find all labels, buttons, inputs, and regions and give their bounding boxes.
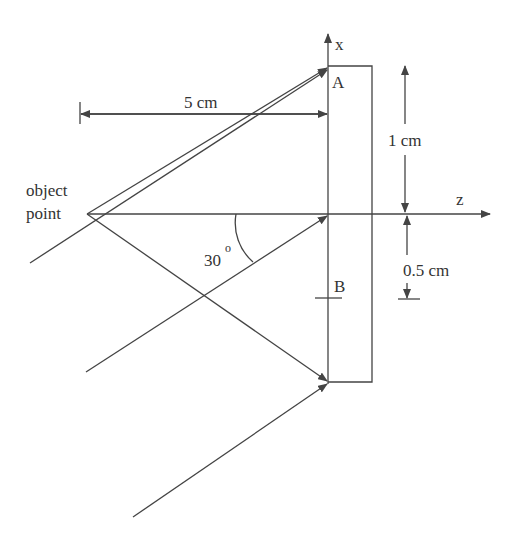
object-point-label-line2: point xyxy=(26,204,61,223)
z-axis-label: z xyxy=(456,190,464,209)
height-upper-label: 1 cm xyxy=(388,131,422,150)
x-axis-label: x xyxy=(335,35,344,54)
point-a-label: A xyxy=(332,73,345,92)
parallel-ray-middle xyxy=(86,216,327,372)
angle-label: 30 xyxy=(204,251,221,270)
aperture-rectangle xyxy=(328,66,372,382)
parallel-ray-top xyxy=(30,70,327,263)
distance-label: 5 cm xyxy=(184,93,218,112)
parallel-ray-bottom xyxy=(133,384,327,517)
angle-arc xyxy=(235,214,253,262)
point-b-label: B xyxy=(334,277,345,296)
angle-degree-symbol: o xyxy=(225,241,231,255)
object-point-label-line1: object xyxy=(26,181,68,200)
optics-diagram: x A B z object point 30 o 5 cm 1 cm 0.5 … xyxy=(0,0,510,538)
height-lower-label: 0.5 cm xyxy=(403,261,449,280)
ray-object-to-a xyxy=(87,68,327,214)
